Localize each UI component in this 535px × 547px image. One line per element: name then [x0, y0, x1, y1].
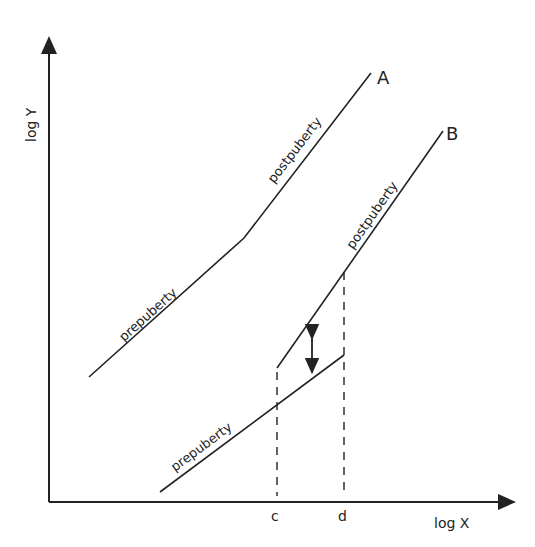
- tick-c: c: [271, 508, 279, 524]
- tick-d: d: [338, 508, 347, 524]
- y-axis-label: log Y: [23, 107, 39, 142]
- x-axis-label: log X: [434, 515, 470, 531]
- allometry-diagram: log Y log X A prepuberty postpuberty B p…: [0, 0, 535, 547]
- curve-b-post-label: postpuberty: [343, 178, 401, 252]
- curve-a-post-label: postpuberty: [264, 114, 324, 186]
- curve-b-pre-label: prepuberty: [168, 419, 235, 474]
- curve-a-name: A: [377, 67, 390, 88]
- curve-a-pre-label: prepuberty: [116, 285, 180, 345]
- curve-b-postpuberty: [277, 131, 443, 368]
- curve-b-prepuberty: [160, 355, 344, 492]
- curve-b-name: B: [446, 123, 458, 144]
